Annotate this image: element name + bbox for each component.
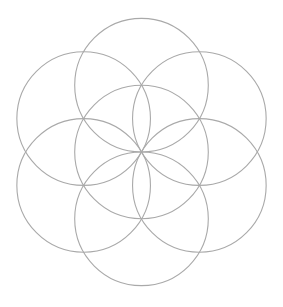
- circle-group: [17, 18, 266, 285]
- seed-of-life-diagram: [0, 0, 283, 307]
